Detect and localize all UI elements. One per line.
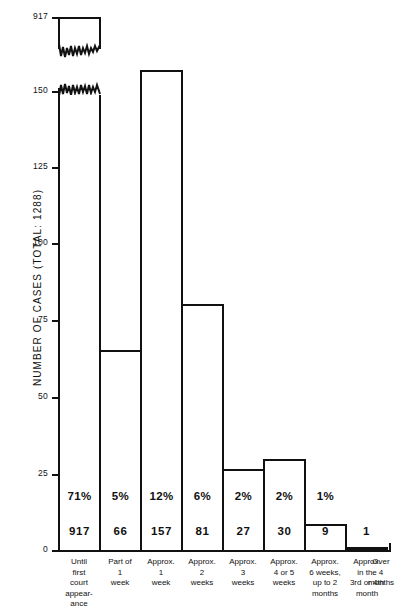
bar-1-until-first-court-appearance: [58, 95, 101, 552]
bar-6-approx-4-or-5-weeks: [263, 459, 306, 552]
bar-2-count-label: 66: [99, 525, 142, 537]
bar-chart: NUMBER OF CASES (TOTAL: 1288) 917 150 12…: [0, 0, 404, 614]
x-category-label-1: Until first court appear- ance: [56, 557, 102, 610]
x-axis-end-tick: [389, 543, 391, 552]
bar-2-part-of-1-week: [99, 350, 142, 552]
x-category-label-2-line-1: Part of: [97, 557, 143, 568]
x-category-label-4-line-2: 2: [179, 568, 225, 579]
y-tick-label-50: 50: [8, 391, 48, 401]
x-category-label-4-line-1: Approx.: [179, 557, 225, 568]
bar-1-break-zigzag-lower: [58, 43, 101, 59]
y-axis-title: NUMBER OF CASES (TOTAL: 1288): [32, 173, 43, 403]
bar-8-count-label: 1: [345, 525, 388, 537]
y-tick-label-0: 0: [8, 544, 48, 554]
x-category-label-9: Over 4 months: [358, 557, 404, 589]
x-category-label-9-line-3: months: [358, 578, 404, 589]
x-category-label-5-line-1: Approx.: [220, 557, 266, 568]
bar-3-percent-label: 12%: [140, 490, 183, 502]
x-category-label-9-line-2: 4: [358, 568, 404, 579]
x-category-label-8-line-4: month: [342, 589, 392, 600]
x-category-label-9-line-1: Over: [358, 557, 404, 568]
bar-3-approx-1-week: [140, 70, 183, 552]
bar-1-percent-label: 71%: [58, 490, 101, 502]
x-category-label-1-line-5: ance: [56, 599, 102, 610]
x-category-label-1-line-4: appear-: [56, 589, 102, 600]
bar-2-percent-label: 5%: [99, 490, 142, 502]
bar-1-count-label: 917: [58, 525, 101, 537]
x-category-label-1-line-2: first: [56, 568, 102, 579]
x-category-label-2-line-3: week: [97, 578, 143, 589]
bar-3-count-label: 157: [140, 525, 183, 537]
bar-4-count-label: 81: [181, 525, 224, 537]
x-category-label-2-line-2: 1: [97, 568, 143, 579]
x-category-label-1-line-1: Until: [56, 557, 102, 568]
x-category-label-3-line-2: 1: [138, 568, 184, 579]
x-category-label-3-line-1: Approx.: [138, 557, 184, 568]
x-category-label-1-line-3: court: [56, 578, 102, 589]
bar-6-percent-label: 2%: [263, 490, 306, 502]
y-tick-label-100: 100: [8, 237, 48, 247]
x-category-label-4-line-3: weeks: [179, 578, 225, 589]
y-tick-label-125: 125: [8, 161, 48, 171]
x-category-label-2: Part of 1 week: [97, 557, 143, 589]
bar-7-percent-label: 1%: [304, 490, 347, 502]
x-category-label-3-line-3: week: [138, 578, 184, 589]
x-category-label-5-line-3: weeks: [220, 578, 266, 589]
bar-4-approx-2-weeks: [181, 304, 224, 552]
bar-5-percent-label: 2%: [222, 490, 265, 502]
bar-7-count-label: 9: [304, 525, 347, 537]
x-category-label-5: Approx. 3 weeks: [220, 557, 266, 589]
y-tick-label-150: 150: [8, 85, 48, 95]
bar-5-count-label: 27: [222, 525, 265, 537]
x-category-label-4: Approx. 2 weeks: [179, 557, 225, 589]
x-category-label-3: Approx. 1 week: [138, 557, 184, 589]
bar-4-percent-label: 6%: [181, 490, 224, 502]
x-category-label-5-line-2: 3: [220, 568, 266, 579]
y-tick-label-75: 75: [8, 314, 48, 324]
x-axis-line: [58, 550, 391, 552]
y-tick-label-917: 917: [8, 11, 48, 21]
y-tick-label-25: 25: [8, 468, 48, 478]
bar-5-approx-3-weeks: [222, 469, 265, 552]
bar-6-count-label: 30: [263, 525, 306, 537]
